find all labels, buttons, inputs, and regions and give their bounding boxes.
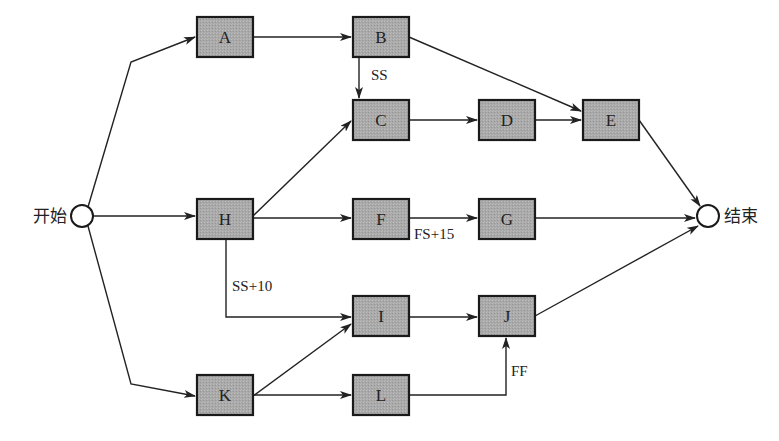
activity-node-I: I xyxy=(353,296,409,336)
activity-label: G xyxy=(501,210,513,229)
edge-start-to-A xyxy=(88,37,195,207)
edge-K-to-I xyxy=(253,324,351,396)
dependency-label: SS xyxy=(371,67,388,83)
activity-label: L xyxy=(376,386,386,405)
start-circle-icon xyxy=(71,205,93,227)
activity-label: H xyxy=(219,210,231,229)
activity-label: F xyxy=(376,210,385,229)
activity-node-B: B xyxy=(353,17,409,57)
activity-node-K: K xyxy=(197,375,253,415)
end-node: 结束 xyxy=(697,205,758,227)
dependency-label: FF xyxy=(511,363,528,379)
activity-label: I xyxy=(378,307,384,326)
activity-label: C xyxy=(375,111,386,130)
activity-label: A xyxy=(219,28,232,47)
arrow-line xyxy=(253,121,351,216)
dependency-label: SS+10 xyxy=(232,278,272,294)
arrow-line xyxy=(88,37,195,207)
activity-node-G: G xyxy=(479,199,535,239)
dependency-label: FS+15 xyxy=(414,226,454,242)
activity-label: K xyxy=(219,386,232,405)
edge-E-to-end xyxy=(639,120,700,206)
edge-start-to-K xyxy=(88,226,195,396)
activity-node-L: L xyxy=(353,375,409,415)
edge-H-to-C xyxy=(253,121,351,216)
edge-J-to-end xyxy=(535,226,698,316)
nodes-layer: ABCDEHFGIJKL xyxy=(197,17,639,415)
activity-node-H: H xyxy=(197,199,253,239)
arrow-line xyxy=(409,338,506,395)
start-label: 开始 xyxy=(33,206,67,226)
arrow-line xyxy=(88,226,195,396)
activity-label: J xyxy=(504,307,511,326)
activity-node-D: D xyxy=(479,100,535,140)
activity-node-A: A xyxy=(197,17,253,57)
activity-node-E: E xyxy=(583,100,639,140)
activity-node-J: J xyxy=(479,296,535,336)
arrow-line xyxy=(253,324,351,396)
edge-L-to-J: FF xyxy=(409,338,528,395)
activity-node-C: C xyxy=(353,100,409,140)
arrow-line xyxy=(639,120,700,206)
edge-F-to-G: FS+15 xyxy=(409,218,477,242)
diagram-canvas: SSSS+10FS+15FF ABCDEHFGIJKL 开始结束 xyxy=(0,0,779,441)
edge-H-to-I: SS+10 xyxy=(226,239,351,317)
start-node: 开始 xyxy=(33,205,93,227)
edge-B-to-C: SS xyxy=(359,57,388,98)
end-label: 结束 xyxy=(724,206,758,226)
activity-node-F: F xyxy=(353,199,409,239)
activity-label: E xyxy=(606,111,616,130)
arrow-line xyxy=(535,226,698,316)
precedence-network-diagram: SSSS+10FS+15FF ABCDEHFGIJKL 开始结束 xyxy=(0,0,779,441)
end-circle-icon xyxy=(697,205,719,227)
activity-label: D xyxy=(501,111,513,130)
activity-label: B xyxy=(375,28,386,47)
